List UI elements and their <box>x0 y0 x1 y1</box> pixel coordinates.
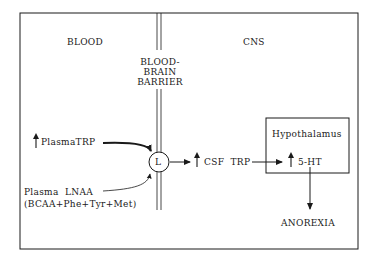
node-transporter-l: L <box>155 158 161 167</box>
region-label-blood: BLOOD <box>67 38 103 47</box>
node-anorexia: ANOREXIA <box>281 219 335 228</box>
node-plasma-trp: PlasmaTRP <box>41 138 95 147</box>
node-csf-trp: CSF TRP <box>204 158 250 167</box>
region-label-cns: CNS <box>243 38 265 47</box>
plasma-lnaa-line-1: Plasma LNAA <box>24 186 136 198</box>
node-5-ht: 5-HT <box>298 158 322 167</box>
barrier-line-3: BARRIER <box>134 77 186 87</box>
barrier-lines <box>157 13 161 210</box>
region-label-barrier: BLOOD- BRAIN BARRIER <box>134 57 186 87</box>
node-plasma-lnaa: Plasma LNAA (BCAA+Phe+Tyr+Met) <box>24 186 136 210</box>
trp-to-transporter-arrow <box>103 143 151 151</box>
increase-up-arrow-icon <box>194 152 200 167</box>
increase-up-arrow-icon <box>288 152 294 167</box>
plasma-lnaa-line-2: (BCAA+Phe+Tyr+Met) <box>24 198 136 210</box>
barrier-line-2: BRAIN <box>134 67 186 77</box>
node-hypothalamus: Hypothalamus <box>272 130 342 139</box>
increase-up-arrow-icon <box>33 133 39 148</box>
barrier-line-1: BLOOD- <box>134 57 186 67</box>
